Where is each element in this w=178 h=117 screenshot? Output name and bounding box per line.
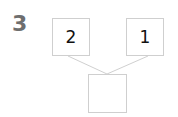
- part-right-box: 1: [126, 18, 164, 56]
- part-left-box: 2: [52, 18, 90, 56]
- question-number: 3: [12, 12, 27, 36]
- whole-answer-box[interactable]: [88, 74, 127, 113]
